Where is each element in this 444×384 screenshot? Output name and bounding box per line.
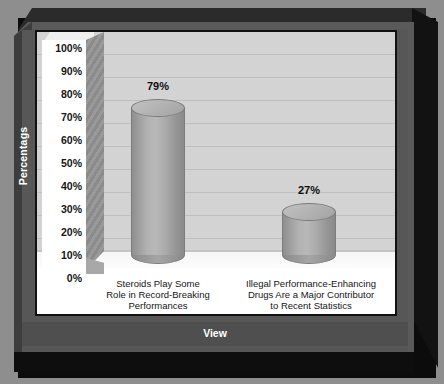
bar-top-ellipse-2: [282, 203, 336, 221]
y-tick-50: 50%: [61, 158, 82, 169]
category-label-1-line-1: Steroids Play Some: [95, 278, 221, 289]
bar-top-ellipse-1: [131, 99, 185, 117]
y-tick-40: 40%: [61, 181, 82, 192]
category-label-2-line-1: Illegal Performance-Enhancing: [229, 278, 393, 289]
category-label-1-line-3: Performances: [95, 300, 221, 311]
bar-value-label-1: 79%: [111, 80, 205, 92]
y-tick-10: 10%: [61, 250, 82, 261]
bar-cylinder-2[interactable]: 27%: [282, 203, 336, 255]
category-label-1: Steroids Play Some Role in Record-Breaki…: [95, 278, 221, 311]
y-tick-100: 100%: [55, 43, 82, 54]
y-tick-80: 80%: [61, 89, 82, 100]
y-tick-0: 0%: [67, 273, 82, 284]
x-axis-title: View: [22, 327, 408, 339]
plot-side-wall: [86, 32, 104, 270]
y-tick-60: 60%: [61, 135, 82, 146]
y-axis-title: Percentags: [17, 121, 29, 191]
y-tick-70: 70%: [61, 112, 82, 123]
category-label-2-line-2: Drugs Are a Major Contributor: [229, 289, 393, 300]
bar-value-label-2: 27%: [262, 184, 356, 196]
chart-screenshot: 100% 90% 80% 70% 60% 50% 40% 30% 20% 10%…: [0, 0, 444, 384]
frame-right-bevel: [412, 8, 438, 368]
category-label-2-line-3: to Recent Statistics: [229, 300, 393, 311]
bar-body-1: [131, 108, 185, 255]
y-tick-90: 90%: [61, 66, 82, 77]
y-tick-20: 20%: [61, 227, 82, 238]
category-label-1-line-2: Role in Record-Breaking: [95, 289, 221, 300]
frame-bottom-bevel: [14, 352, 414, 372]
y-axis-label-strip: 100% 90% 80% 70% 60% 50% 40% 30% 20% 10%…: [42, 40, 86, 270]
bar-cylinder-1[interactable]: 79%: [131, 99, 185, 255]
category-label-2: Illegal Performance-Enhancing Drugs Are …: [229, 278, 393, 311]
y-tick-30: 30%: [61, 204, 82, 215]
